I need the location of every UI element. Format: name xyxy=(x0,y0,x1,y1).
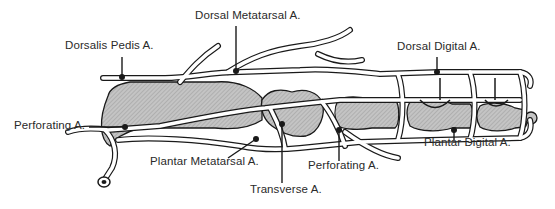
label-dorsalis-pedis-artery: Dorsalis Pedis A. xyxy=(65,39,154,51)
label-transverse-artery: Transverse A. xyxy=(250,183,322,195)
toe-arterial-diagram xyxy=(0,0,555,209)
label-plantar-metatarsal-artery: Plantar Metatarsal A. xyxy=(150,155,259,167)
label-perforating-artery-proximal: Perforating A. xyxy=(14,119,85,131)
label-perforating-artery-distal: Perforating A. xyxy=(308,159,379,171)
label-plantar-digital-artery: Plantar Digital A. xyxy=(424,136,511,148)
label-dorsal-metatarsal-artery: Dorsal Metatarsal A. xyxy=(195,9,301,21)
label-dorsal-digital-artery: Dorsal Digital A. xyxy=(397,40,481,52)
